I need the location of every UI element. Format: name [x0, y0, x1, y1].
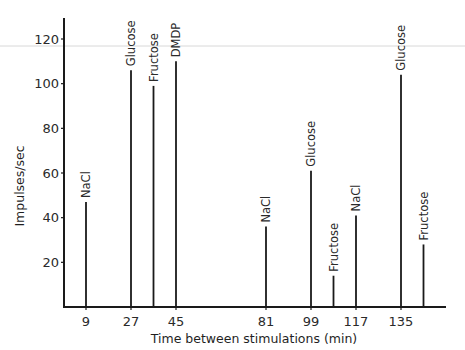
x-tick-label: 45 [168, 314, 185, 329]
bar-label: Fructose [147, 33, 161, 82]
bar-label: Fructose [327, 223, 341, 272]
y-tick-label: 120 [34, 32, 59, 47]
y-axis-title: Impulses/sec [12, 145, 27, 226]
x-axis-title: Time between stimulations (min) [150, 331, 357, 346]
bar-label: Glucose [394, 25, 408, 71]
x-tick-label: 135 [389, 314, 414, 329]
y-tick-label: 80 [42, 121, 59, 136]
x-tick-label: 9 [82, 314, 90, 329]
x-tick-label: 117 [344, 314, 369, 329]
y-axis: 20406080100120 [34, 18, 64, 307]
y-tick-label: 100 [34, 76, 59, 91]
x-tick-label: 81 [258, 314, 275, 329]
bar-label: DMDP [169, 23, 183, 58]
y-tick-label: 60 [42, 166, 59, 181]
bar-label: Fructose [417, 192, 431, 241]
bar-label: NaCl [259, 196, 273, 223]
bar-label: NaCl [79, 171, 93, 198]
bar-label: NaCl [349, 185, 363, 212]
x-tick-label: 99 [303, 314, 320, 329]
y-tick-label: 20 [42, 255, 59, 270]
bar-series: NaClGlucoseFructoseDMDPNaClGlucoseFructo… [79, 20, 431, 307]
y-tick-label: 40 [42, 210, 59, 225]
x-tick-label: 27 [123, 314, 140, 329]
chart: 20406080100120 927458199117135 NaClGluco… [0, 0, 465, 350]
bar-label: Glucose [124, 20, 138, 66]
x-axis: 927458199117135 [63, 307, 446, 329]
bar-label: Glucose [304, 121, 318, 167]
